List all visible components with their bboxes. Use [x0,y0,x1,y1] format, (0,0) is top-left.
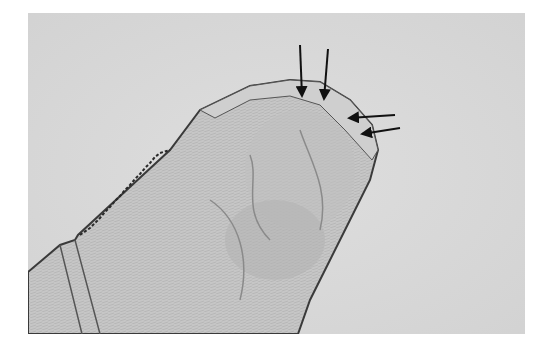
micrograph-photo: Light micrograph of the anterior end of … [28,13,525,334]
specimen-drawing [28,13,525,334]
